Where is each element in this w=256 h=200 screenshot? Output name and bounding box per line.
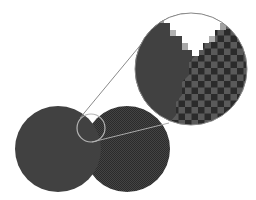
diagram-canvas bbox=[0, 0, 256, 200]
left-solid-circle bbox=[15, 106, 101, 192]
